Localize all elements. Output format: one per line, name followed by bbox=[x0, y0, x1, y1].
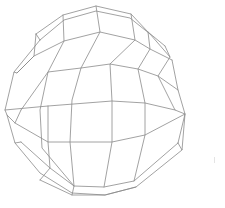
latitude-line-8 bbox=[21, 142, 178, 187]
longitude-line-3 bbox=[134, 32, 150, 181]
wireframe-sphere-canvas bbox=[0, 0, 225, 208]
wireframe-sphere bbox=[0, 0, 225, 208]
longitude-line-2 bbox=[104, 14, 135, 187]
longitude-line-7 bbox=[172, 60, 185, 150]
longitude-lines bbox=[5, 6, 185, 195]
latitude-line-2 bbox=[14, 40, 40, 72]
latitude-lines bbox=[5, 6, 185, 195]
latitude-line-5 bbox=[5, 101, 175, 110]
faint-artifact-mark bbox=[214, 157, 215, 163]
longitude-line-4 bbox=[158, 46, 185, 143]
latitude-line-6 bbox=[7, 114, 185, 142]
longitude-line-9 bbox=[15, 110, 21, 123]
longitude-line-6 bbox=[36, 34, 40, 40]
